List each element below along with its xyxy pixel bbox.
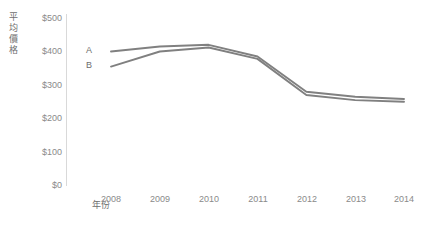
y-tick-200: $200 bbox=[22, 113, 62, 123]
x-tick-2012: 2012 bbox=[287, 194, 327, 204]
line-chart: 平均價格 年份 $500 $400 $300 $200 $100 $0 2008… bbox=[0, 0, 423, 230]
y-axis-title: 平均價格 bbox=[6, 12, 20, 56]
x-tick-2010: 2010 bbox=[189, 194, 229, 204]
y-tick-400: $400 bbox=[22, 46, 62, 56]
x-tick-2008: 2008 bbox=[91, 194, 131, 204]
y-tick-0: $0 bbox=[22, 180, 62, 190]
series-label-a: A bbox=[86, 45, 92, 55]
y-tick-100: $100 bbox=[22, 147, 62, 157]
y-tick-500: $500 bbox=[22, 13, 62, 23]
x-tick-2013: 2013 bbox=[336, 194, 376, 204]
x-tick-2011: 2011 bbox=[238, 194, 278, 204]
series-label-b: B bbox=[86, 60, 92, 70]
y-tick-300: $300 bbox=[22, 80, 62, 90]
x-tick-2014: 2014 bbox=[384, 194, 423, 204]
x-tick-2009: 2009 bbox=[140, 194, 180, 204]
